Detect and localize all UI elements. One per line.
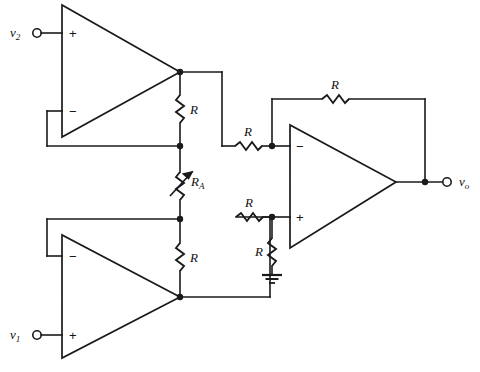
terminal-v2[interactable] <box>33 29 41 37</box>
ground-icon <box>262 275 282 283</box>
label-r-bottom-bridge: R <box>189 250 198 265</box>
opamp-a3-body <box>290 125 396 248</box>
opamp-a1-body <box>62 5 180 137</box>
label-r-top-bridge: R <box>189 102 198 117</box>
resistor-r-top-bridge <box>176 95 184 123</box>
label-vo: vo <box>459 174 470 191</box>
label-a3-plus: + <box>296 210 304 225</box>
label-a3-minus: − <box>296 139 304 154</box>
label-r-feedback: R <box>330 77 339 92</box>
opamp-a2-body <box>62 235 180 358</box>
node-a2-feedback <box>177 216 183 222</box>
resistor-r-bottom-bridge <box>176 243 184 271</box>
label-a2-plus: + <box>69 328 77 343</box>
label-v1: v1 <box>10 327 20 344</box>
node-a1-output <box>177 69 183 75</box>
label-r-to-ground: R <box>254 244 263 259</box>
node-a1-feedback <box>177 143 183 149</box>
resistor-r-inverting-input <box>235 142 262 150</box>
node-a3-inverting <box>269 143 275 149</box>
schematic-svg: v2 v1 vo + − − + − + R RA R R R R R <box>0 0 480 372</box>
label-a1-minus: − <box>69 104 77 119</box>
node-a3-noninverting <box>269 214 275 220</box>
terminal-vo[interactable] <box>443 178 451 186</box>
node-a3-output <box>422 179 428 185</box>
label-r-noninverting-input: R <box>244 195 253 210</box>
label-a2-minus: − <box>69 249 77 264</box>
circuit-diagram: v2 v1 vo + − − + − + R RA R R R R R <box>0 0 480 372</box>
terminal-v1[interactable] <box>33 331 41 339</box>
resistor-r-feedback <box>322 95 349 103</box>
label-ra: RA <box>190 174 205 191</box>
label-v2: v2 <box>10 25 21 42</box>
node-a2-output <box>177 294 183 300</box>
label-r-inverting-input: R <box>243 124 252 139</box>
label-a1-plus: + <box>69 26 77 41</box>
